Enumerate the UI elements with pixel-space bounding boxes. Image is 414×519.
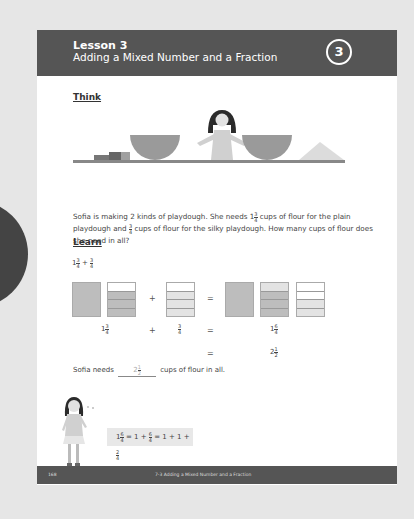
label-left: 134	[101, 324, 109, 335]
table-line	[73, 160, 345, 163]
thinking-girl-illustration	[55, 392, 95, 467]
whole-model-right	[225, 282, 254, 317]
girl-icon	[197, 110, 247, 160]
whole-model-left	[72, 282, 101, 317]
label-right: 164	[270, 324, 278, 335]
label-middle: 34	[178, 324, 181, 335]
plus-operator-label: +	[149, 326, 156, 335]
equals-operator-label: =	[207, 326, 214, 335]
think-paragraph: Sofia is making 2 kinds of playdough. Sh…	[73, 211, 373, 247]
learn-heading: Learn	[73, 237, 102, 247]
flour-pile-icon	[299, 142, 344, 160]
left-bowl-icon	[130, 135, 180, 160]
footer-lesson-title: 7-3 Adding a Mixed Number and a Fraction	[155, 472, 251, 477]
answer-blank: 212	[118, 365, 156, 377]
light-box-icon	[121, 152, 130, 160]
equals-operator-simplified: =	[207, 349, 214, 358]
three-fourths-model-middle	[166, 282, 195, 317]
learn-expression: 134 + 34	[72, 258, 93, 269]
equals-operator: =	[207, 294, 214, 303]
label-simplified: 212	[270, 347, 278, 358]
footer-page-number: 168	[48, 472, 57, 477]
plus-operator: +	[149, 294, 156, 303]
page-number-tab: 168	[0, 200, 28, 308]
combined-model-third	[296, 282, 325, 317]
answer-sentence: Sofia needs 212 cups of flour in all.	[73, 365, 225, 377]
girl-with-bowls-illustration	[37, 30, 397, 170]
three-fourths-model-left	[107, 282, 136, 317]
thought-bubble: 164 = 1 + 64 = 1 + 1 + 24	[107, 428, 193, 446]
dark-box-icon	[109, 152, 121, 160]
right-bowl-icon	[242, 135, 292, 160]
combined-model-second	[260, 282, 289, 317]
page-footer: 168 7-3 Adding a Mixed Number and a Frac…	[37, 466, 397, 484]
textbook-page: Lesson 3 Adding a Mixed Number and a Fra…	[37, 30, 397, 485]
